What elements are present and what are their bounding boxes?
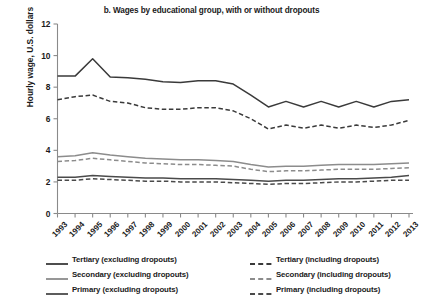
legend-item[interactable]: Tertiary (excluding dropouts) [46,255,228,265]
legend-label: Tertiary (including dropouts) [276,255,379,264]
chart-container: b. Wages by educational group, with or w… [0,0,423,307]
dashed-line-icon [250,285,272,295]
legend-label: Tertiary (excluding dropouts) [72,255,177,264]
series-line-1 [58,95,410,129]
dashed-line-icon [250,270,272,280]
y-tick-label: 8 [46,82,51,92]
y-tick-label: 0 [46,209,51,219]
y-tick-label: 6 [46,114,51,124]
data-series-group [58,59,410,185]
solid-line-icon [46,285,68,295]
chart-legend: Tertiary (excluding dropouts)Tertiary (i… [46,252,422,297]
legend-item[interactable]: Primary (excluding dropouts) [46,285,228,295]
legend-item[interactable]: Secondary (excluding dropouts) [46,270,228,280]
legend-label: Secondary (including dropouts) [276,270,391,279]
y-tick-label: 12 [41,19,51,29]
solid-line-icon [46,255,68,265]
legend-label: Primary (excluding dropouts) [72,285,178,294]
dashed-line-icon [250,255,272,265]
legend-label: Secondary (excluding dropouts) [72,270,189,279]
y-tick-label: 2 [46,177,51,187]
x-axis [58,214,414,218]
legend-label: Primary (including dropouts) [276,285,380,294]
y-tick-label: 4 [46,145,51,155]
series-line-0 [58,59,410,107]
solid-line-icon [46,270,68,280]
legend-item[interactable]: Secondary (including dropouts) [228,270,422,280]
y-axis: 024681012 [41,19,57,219]
legend-item[interactable]: Tertiary (including dropouts) [228,255,422,265]
legend-item[interactable]: Primary (including dropouts) [228,285,422,295]
y-tick-label: 10 [41,51,51,61]
